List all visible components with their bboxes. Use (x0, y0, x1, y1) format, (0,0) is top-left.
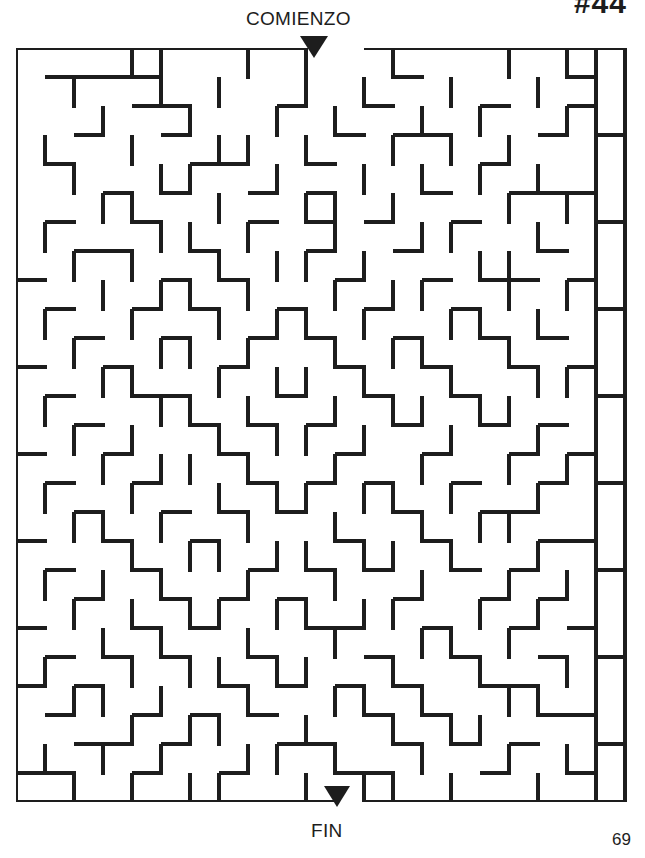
maze-grid (16, 48, 628, 802)
puzzle-number: #44 (574, 0, 627, 20)
maze-walls-svg (16, 48, 628, 802)
maze-end-label: FIN (311, 820, 343, 842)
page-number: 69 (612, 830, 631, 850)
maze-puzzle-page: { "page": { "puzzle_number": "#44", "pag… (0, 0, 645, 858)
maze-start-label: COMIENZO (246, 8, 351, 30)
end-arrow-icon (324, 786, 350, 807)
